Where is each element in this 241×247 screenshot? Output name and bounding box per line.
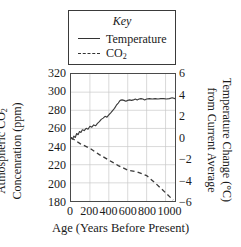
chart-legend: Key Temperature CO2 — [68, 10, 176, 65]
series-temperature-line — [71, 98, 175, 140]
right-tick-6: 6 — [179, 67, 199, 79]
left-tick-260: 260 — [36, 122, 66, 134]
left-axis-title-line1: Atmospheric CO2 — [0, 108, 8, 194]
left-tick-300: 300 — [36, 85, 66, 97]
legend-label-co2-text: CO — [106, 46, 123, 60]
right-axis-ticks: 6 4 2 0 −2 −4 −6 — [179, 73, 201, 202]
left-axis-title-container: Atmospheric CO2 Concenration (ppm) — [0, 60, 34, 220]
right-axis-title-container: Temperature Change (°C) from Current Ave… — [200, 60, 236, 220]
x-tick-1000: 1000 — [158, 204, 182, 218]
left-axis-title: Atmospheric CO2 Concenration (ppm) — [0, 85, 26, 217]
legend-title: Key — [69, 14, 175, 28]
plot-svg — [71, 74, 175, 201]
x-tick-200: 200 — [80, 204, 98, 218]
right-axis-title: Temperature Change (°C) from Current Ave… — [202, 60, 234, 220]
horizontal-gridlines — [71, 92, 175, 183]
legend-entry-temperature: Temperature — [78, 32, 166, 46]
x-axis-title: Age (Years Before Present) — [8, 221, 233, 236]
vertical-gridlines — [90, 74, 166, 201]
left-tick-200: 200 — [36, 178, 66, 190]
left-tick-320: 320 — [36, 67, 66, 79]
dashed-line-icon — [78, 49, 100, 59]
left-tick-280: 280 — [36, 104, 66, 116]
right-tick-neg2: −2 — [179, 153, 199, 165]
right-axis-title-line2: from Current Average — [205, 87, 219, 192]
right-tick-0: 0 — [179, 132, 199, 144]
chart-figure: Key Temperature CO2 — [0, 0, 241, 247]
legend-entry-co2: CO2 — [78, 47, 127, 61]
right-tick-neg6: −6 — [179, 196, 199, 208]
right-tick-4: 4 — [179, 89, 199, 101]
plot-area — [70, 73, 176, 202]
right-axis-title-line1: Temperature Change (°C) — [220, 78, 234, 202]
legend-label-co2-subscript: 2 — [123, 52, 127, 61]
left-axis-title-line1-text: Atmospheric CO — [0, 112, 8, 194]
x-tick-600: 600 — [119, 204, 137, 218]
right-tick-2: 2 — [179, 110, 199, 122]
left-tick-240: 240 — [36, 141, 66, 153]
x-tick-400: 400 — [100, 204, 118, 218]
legend-label-co2: CO2 — [106, 47, 127, 61]
solid-line-icon — [78, 34, 100, 44]
left-axis-title-subscript: 2 — [0, 108, 9, 112]
right-tick-neg4: −4 — [179, 175, 199, 187]
left-axis-title-line2: Concenration (ppm) — [10, 103, 24, 200]
left-tick-220: 220 — [36, 159, 66, 171]
legend-label-temperature: Temperature — [106, 33, 166, 46]
x-tick-0: 0 — [67, 204, 73, 218]
x-tick-800: 800 — [138, 204, 156, 218]
left-tick-180: 180 — [36, 196, 66, 208]
bottom-axis-ticks: 0 200 400 600 800 1000 — [70, 204, 176, 220]
left-axis-ticks: 320 300 280 260 240 220 200 180 — [33, 73, 66, 202]
